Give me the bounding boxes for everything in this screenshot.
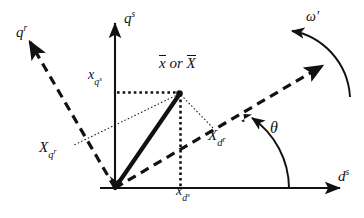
label-X-q-rotor: Xqr [39,140,56,159]
label-x-bar: x [159,55,166,71]
label-d-stationary-axis: ds [338,168,349,184]
label-x-d-stator-sub-sup: s [187,191,190,199]
space-vector-tip [176,90,183,97]
q-rotor-axis [30,42,115,188]
d-rotor-projection-line [181,95,213,128]
label-X-q-rotor-sub-sup: r [53,147,56,156]
label-q-rotor-base: q [16,24,24,40]
label-x-q-stationary: xqs [88,68,102,85]
space-vector [115,95,179,188]
label-q-stator-base: q [124,10,132,26]
vector-diagram-figure: qr qs ω' x or X xqs Xqr Xdr xds θ ds [0,0,364,218]
label-X-d-rotor-sub: dr [217,137,225,148]
label-x-d-stationary: xds [176,184,190,201]
label-q-stationary-axis: qs [124,10,135,26]
label-space-vector: x or X [159,55,196,71]
label-d-stator-base: d [338,168,346,184]
label-X-d-rotor: Xdr [208,128,225,147]
label-omega-prime-text: ω' [306,9,319,24]
label-X-q-rotor-sub: qr [48,149,56,160]
label-x-d-stator-sub: ds [182,192,190,203]
label-or: or [169,55,182,71]
label-q-rotor-sup: r [24,23,28,33]
label-q-rotor-axis: qr [16,24,27,40]
label-X-bar: X [187,55,196,71]
label-omega-prime: ω' [306,10,319,24]
label-x-q-stator-sub: qs [94,76,102,87]
label-X-d-rotor-sub-sup: r [222,135,225,144]
label-q-stator-sup: s [132,9,136,19]
d-rotor-axis-inner-arrowhead [241,114,252,122]
omega-rotation-arc [292,31,350,97]
label-X-d-rotor-base: X [208,127,217,143]
label-d-stator-sup: s [346,167,350,177]
label-theta-text: θ [270,119,278,136]
d-rotor-axis [115,66,322,188]
label-X-q-rotor-base: X [39,139,48,155]
label-x-q-stator-sub-sup: s [99,75,102,83]
label-theta-angle: θ [270,120,278,136]
